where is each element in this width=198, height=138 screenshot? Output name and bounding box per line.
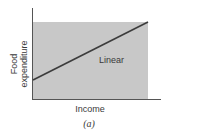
series-label-linear: Linear: [99, 55, 124, 65]
x-axis-label: Income: [70, 104, 110, 114]
linear-engel-curve-chart: Food expenditure Linear Income (a): [0, 0, 198, 138]
figure-caption: (a): [74, 118, 104, 129]
y-axis-label: Food expenditure: [4, 28, 34, 100]
shaded-region: [33, 22, 148, 99]
y-axis-label-line-1: Food: [9, 40, 19, 87]
y-axis-label-line-2: expenditure: [19, 40, 29, 87]
